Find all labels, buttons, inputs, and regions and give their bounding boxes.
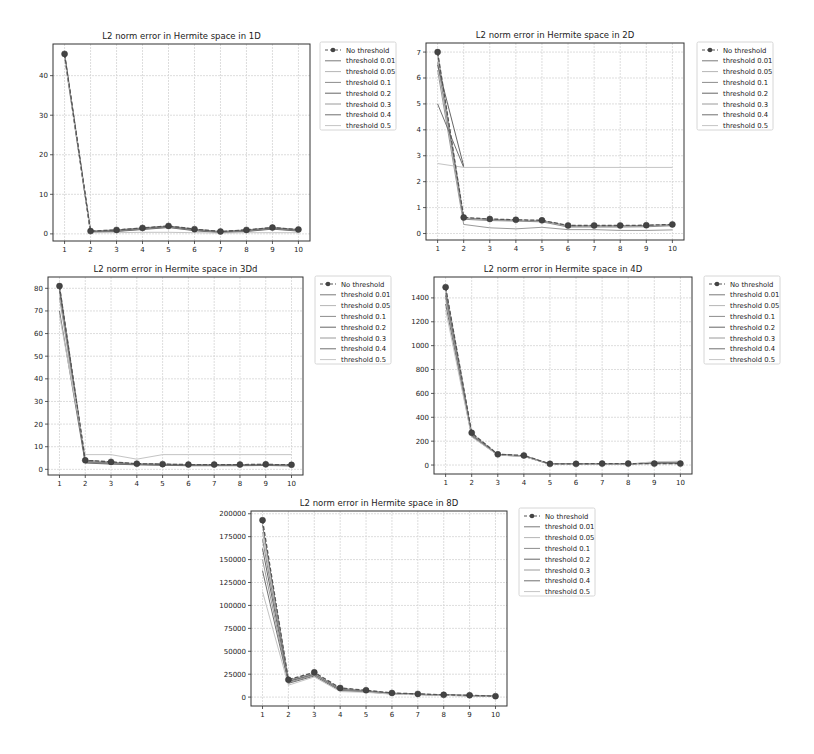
series-line-threshold-0-01: [446, 288, 681, 464]
series-line-no-threshold: [263, 520, 496, 696]
series-line-threshold-0-05: [263, 532, 496, 696]
y-tick-label: 70: [34, 307, 43, 315]
data-point: [311, 669, 317, 675]
data-point: [337, 685, 343, 691]
legend-label: threshold 0.3: [730, 335, 775, 343]
series-line-threshold-0-01: [59, 286, 291, 465]
x-tick-label: 4: [338, 711, 343, 719]
y-tick-label: 3: [417, 152, 421, 160]
x-tick-label: 8: [244, 246, 248, 254]
x-tick-label: 8: [238, 480, 242, 488]
series-line-threshold-0-5: [438, 164, 673, 168]
legend: No thresholdthreshold 0.01threshold 0.05…: [320, 42, 396, 130]
y-tick-label: 5: [417, 100, 421, 108]
x-tick-label: 10: [491, 711, 500, 719]
series-line-no-threshold: [446, 287, 681, 464]
y-tick-label: 0: [425, 462, 429, 470]
y-tick-label: 50000: [224, 648, 246, 656]
series-line-threshold-0-4: [65, 57, 299, 233]
data-point: [263, 461, 269, 467]
y-tick-label: 1: [417, 204, 421, 212]
series-line-threshold-0-4: [59, 311, 291, 466]
legend-label: threshold 0.2: [545, 556, 590, 564]
x-tick-label: 7: [218, 246, 222, 254]
legend: No thresholdthreshold 0.01threshold 0.05…: [697, 42, 773, 130]
series-line-threshold-0-05: [59, 287, 291, 465]
plot-frame: [48, 277, 303, 475]
legend: No thresholdthreshold 0.01threshold 0.05…: [315, 276, 391, 364]
x-tick-label: 6: [192, 246, 197, 254]
y-tick-label: 200: [416, 438, 429, 446]
y-tick-label: 0: [39, 466, 43, 474]
legend-label: threshold 0.4: [545, 577, 590, 585]
legend-marker: [708, 48, 713, 53]
x-tick-label: 7: [212, 480, 216, 488]
series-line-no-threshold: [65, 54, 299, 232]
data-point: [415, 691, 421, 697]
data-point: [651, 461, 657, 467]
legend-label: threshold 0.1: [545, 545, 590, 553]
x-tick-label: 8: [441, 711, 445, 719]
x-tick-label: 5: [364, 711, 368, 719]
legend-label: threshold 0.4: [723, 111, 768, 119]
chart-2: L2 norm error in Hermite space in 2D1234…: [417, 30, 773, 253]
data-point: [237, 462, 243, 468]
y-tick-label: 1400: [411, 294, 429, 302]
chart-title: L2 norm error in Hermite space in 2D: [476, 30, 635, 40]
x-tick-label: 2: [469, 479, 473, 487]
data-point: [140, 225, 146, 231]
legend-label: threshold 0.01: [346, 57, 395, 65]
data-point: [461, 214, 467, 220]
legend-label: threshold 0.1: [723, 79, 768, 87]
x-tick-label: 9: [467, 711, 471, 719]
y-tick-label: 0: [417, 230, 421, 238]
series-line-threshold-0-1: [59, 288, 291, 465]
x-tick-label: 3: [496, 479, 500, 487]
y-tick-label: 10: [39, 191, 48, 199]
x-tick-label: 6: [186, 480, 191, 488]
x-tick-label: 4: [140, 246, 145, 254]
legend-label: threshold 0.2: [730, 324, 775, 332]
legend-label: threshold 0.2: [723, 90, 768, 98]
legend-label: threshold 0.3: [723, 101, 768, 109]
y-tick-label: 1200: [411, 318, 429, 326]
series-line-threshold-0-1: [65, 55, 299, 232]
legend-label: No threshold: [723, 47, 766, 55]
y-tick-label: 20: [39, 151, 48, 159]
x-tick-label: 5: [160, 480, 164, 488]
data-point: [625, 461, 631, 467]
y-tick-label: 30: [34, 398, 43, 406]
y-tick-label: 600: [416, 390, 429, 398]
chart-title: L2 norm error in Hermite space in 4D: [484, 264, 643, 274]
data-point: [191, 226, 197, 232]
y-tick-label: 125000: [219, 579, 246, 587]
x-tick-label: 1: [443, 479, 447, 487]
data-point: [289, 462, 295, 468]
x-tick-label: 8: [626, 479, 630, 487]
legend-label: threshold 0.05: [730, 302, 779, 310]
legend-label: threshold 0.01: [723, 57, 772, 65]
y-tick-label: 175000: [219, 533, 246, 541]
x-tick-label: 6: [566, 245, 571, 253]
x-tick-label: 4: [135, 480, 140, 488]
x-tick-label: 9: [644, 245, 648, 253]
series-line-threshold-0-01: [263, 525, 496, 696]
legend-label: threshold 0.01: [730, 291, 779, 299]
series-line-threshold-0-2: [65, 55, 299, 232]
legend-marker: [326, 282, 331, 287]
x-tick-label: 7: [600, 479, 604, 487]
x-tick-label: 5: [166, 246, 170, 254]
series-line-threshold-0-5: [65, 58, 299, 233]
y-tick-label: 30: [39, 112, 48, 120]
data-point: [495, 451, 501, 457]
data-point: [88, 228, 94, 234]
y-tick-label: 200000: [219, 510, 246, 518]
series-line-threshold-0-3: [59, 297, 291, 465]
data-point: [62, 51, 68, 57]
data-point: [469, 430, 475, 436]
x-tick-label: 3: [312, 711, 316, 719]
chart-5: L2 norm error in Hermite space in 8D1234…: [219, 498, 595, 719]
data-point: [565, 222, 571, 228]
legend: No thresholdthreshold 0.01threshold 0.05…: [519, 508, 595, 596]
x-tick-label: 9: [270, 246, 274, 254]
